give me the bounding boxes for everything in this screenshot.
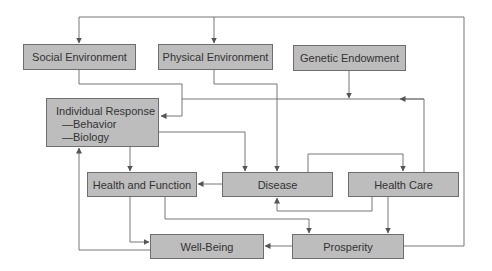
node-prosperity: Prosperity [292,234,404,259]
edge-healthfunction-to-prosperity [165,196,309,233]
node-label: Health Care [374,179,433,191]
node-sublabel-behavior: —Behavior [56,118,116,131]
node-label: Individual Response [56,105,155,118]
edge-healthcare-to-individual [182,99,424,172]
edge-healthfunction-to-wellbeing [130,196,149,242]
node-disease: Disease [222,172,333,197]
node-individual-response: Individual Response —Behavior —Biology [46,98,159,147]
node-sublabel-biology: —Biology [56,131,109,144]
node-physical-environment: Physical Environment [158,44,273,70]
node-genetic-endowment: Genetic Endowment [293,45,406,71]
node-label: Physical Environment [163,51,269,63]
node-health-and-function: Health and Function [87,172,197,197]
node-well-being: Well-Being [150,234,264,259]
node-label: Prosperity [323,241,373,253]
node-social-environment: Social Environment [23,44,136,70]
node-label: Health and Function [93,179,191,191]
edge-healthcare-to-disease [277,196,372,211]
edge-individual-to-disease [158,132,245,171]
edge-disease-to-healthcare [308,154,403,172]
node-label: Well-Being [181,241,234,253]
node-label: Disease [258,179,298,191]
node-label: Social Environment [32,51,127,63]
edge-wellbeing-to-individual [79,148,150,250]
node-health-care: Health Care [348,172,459,197]
node-label: Genetic Endowment [300,52,399,64]
